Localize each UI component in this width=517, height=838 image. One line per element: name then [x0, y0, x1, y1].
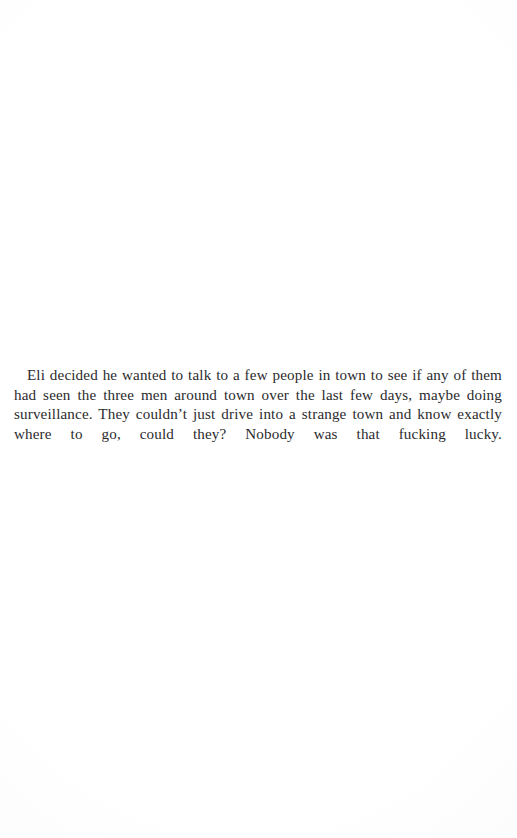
text-column: Eli decided he wanted to talk to a few p… [14, 366, 502, 464]
body-paragraph: Eli decided he wanted to talk to a few p… [14, 366, 502, 464]
bottom-margin-whitespace [0, 470, 517, 838]
book-page: Eli decided he wanted to talk to a few p… [0, 0, 517, 838]
top-margin-whitespace [0, 0, 517, 366]
